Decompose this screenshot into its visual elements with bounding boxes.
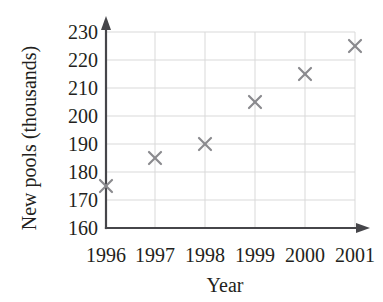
y-tick-label-210: 210 bbox=[68, 77, 98, 99]
screenshot-root: 230 220 210 200 190 180 170 160 1996 199… bbox=[0, 0, 383, 302]
y-tick-label-160: 160 bbox=[68, 217, 98, 239]
y-tick-label-220: 220 bbox=[68, 49, 98, 71]
y-tick-label-180: 180 bbox=[68, 161, 98, 183]
chart-canvas: 230 220 210 200 190 180 170 160 1996 199… bbox=[0, 0, 383, 302]
x-tick-label-1999: 1999 bbox=[235, 244, 275, 266]
x-tick-label-2001: 2001 bbox=[335, 244, 375, 266]
x-tick-label-1996: 1996 bbox=[86, 244, 126, 266]
x-tick-label-1998: 1998 bbox=[185, 244, 225, 266]
y-tick-label-170: 170 bbox=[68, 189, 98, 211]
x-axis-title: Year bbox=[207, 274, 244, 296]
x-tick-label-2000: 2000 bbox=[285, 244, 325, 266]
x-tick-label-1997: 1997 bbox=[135, 244, 175, 266]
y-axis-title: New pools (thousands) bbox=[18, 46, 41, 230]
scatter-chart-figure: 230 220 210 200 190 180 170 160 1996 199… bbox=[0, 0, 383, 302]
y-tick-label-190: 190 bbox=[68, 133, 98, 155]
y-tick-label-230: 230 bbox=[68, 21, 98, 43]
y-tick-label-200: 200 bbox=[68, 105, 98, 127]
